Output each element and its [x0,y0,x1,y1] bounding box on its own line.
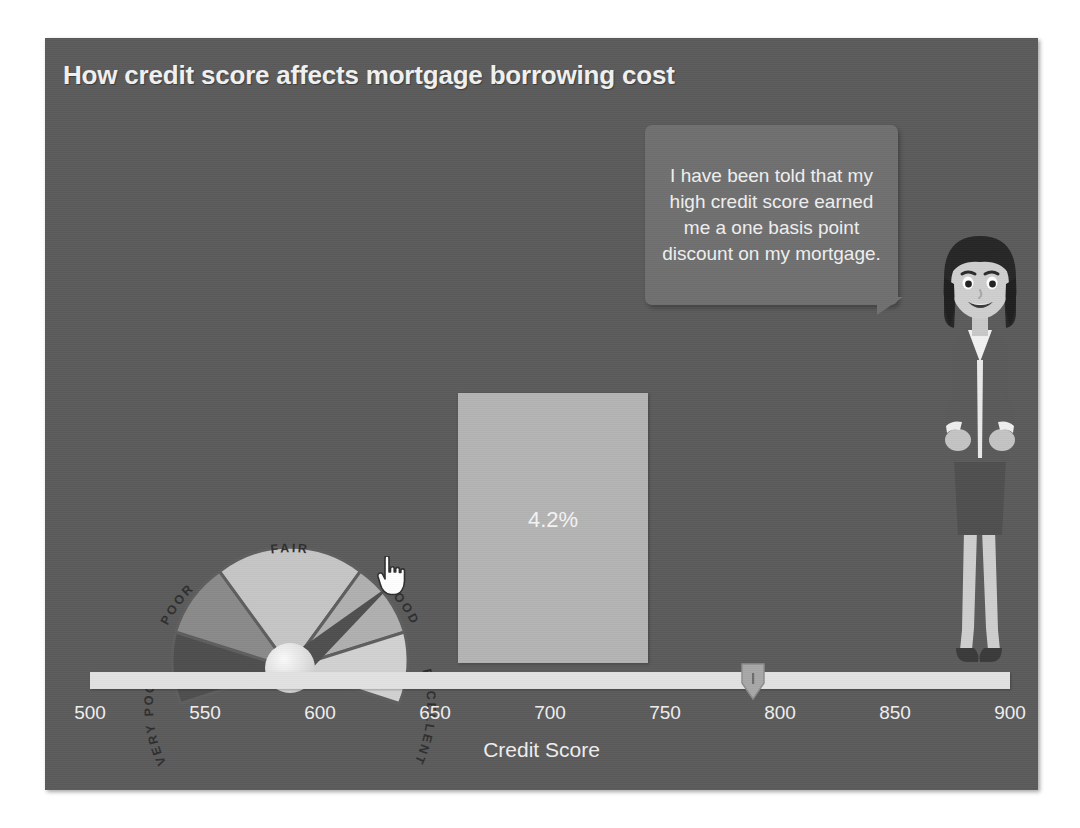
speech-bubble-tail [877,297,903,315]
x-axis-title: Credit Score [45,738,1038,762]
gauge-label-fair: FAIR [270,541,310,556]
credit-score-gauge[interactable]: VERY POOR POOR FAIR GOOD EXCELLENT [55,428,475,708]
businesswoman-illustration [920,230,1038,678]
credit-score-slider-track[interactable] [90,672,1010,689]
speech-bubble: I have been told that my high credit sco… [645,125,898,305]
axis-tick: 850 [879,702,911,724]
axis-tick: 800 [764,702,796,724]
credit-score-slider-handle[interactable] [739,662,767,702]
chart-panel: How credit score affects mortgage borrow… [45,38,1038,790]
speech-bubble-text: I have been told that my high credit sco… [645,125,898,305]
bar-rect: 4.2% [458,393,648,663]
axis-tick: 650 [419,702,451,724]
bar-value-label: 4.2% [458,507,648,533]
axis-ticks: 500 550 600 650 700 750 800 850 900 [90,702,1010,732]
axis-tick: 550 [189,702,221,724]
axis-tick: 750 [649,702,681,724]
axis-tick: 900 [994,702,1026,724]
pointing-hand-cursor [375,556,409,596]
axis-tick: 600 [304,702,336,724]
axis-tick: 500 [74,702,106,724]
page-title: How credit score affects mortgage borrow… [63,60,675,91]
axis-tick: 700 [534,702,566,724]
screenshot-root: How credit score affects mortgage borrow… [0,0,1080,828]
